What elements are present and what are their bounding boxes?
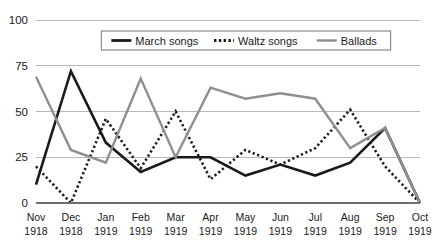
x-tick-month-oct: Oct bbox=[412, 211, 428, 223]
x-tick-year-mar: 1919 bbox=[164, 225, 188, 237]
x-tick-year-may: 1919 bbox=[234, 225, 258, 237]
y-tick-label-75: 75 bbox=[15, 60, 28, 72]
x-tick-month-jul: Jul bbox=[309, 211, 322, 223]
x-tick-year-oct: 1919 bbox=[408, 225, 432, 237]
y-tick-label-0: 0 bbox=[22, 197, 28, 209]
x-tick-month-nov: Nov bbox=[27, 211, 46, 223]
x-tick-month-jan: Jan bbox=[97, 211, 114, 223]
x-tick-month-feb: Feb bbox=[132, 211, 150, 223]
x-tick-month-aug: Aug bbox=[341, 211, 360, 223]
chart-plot-area: 0255075100 Nov1918Dec1918Jan1919Feb1919M… bbox=[0, 0, 440, 252]
x-tick-month-apr: Apr bbox=[202, 211, 219, 223]
y-tick-label-50: 50 bbox=[15, 106, 28, 118]
line-chart: 0255075100 Nov1918Dec1918Jan1919Feb1919M… bbox=[0, 0, 440, 252]
x-tick-month-dec: Dec bbox=[62, 211, 81, 223]
x-tick-year-apr: 1919 bbox=[199, 225, 223, 237]
x-tick-year-jun: 1919 bbox=[269, 225, 293, 237]
x-tick-month-may: May bbox=[236, 211, 257, 223]
legend-label-march-songs: March songs bbox=[135, 35, 198, 47]
y-tick-label-100: 100 bbox=[9, 14, 28, 26]
legend-label-waltz-songs: Waltz songs bbox=[238, 35, 298, 47]
x-tick-year-sep: 1919 bbox=[373, 225, 397, 237]
x-tick-year-feb: 1919 bbox=[129, 225, 153, 237]
x-tick-year-aug: 1919 bbox=[339, 225, 363, 237]
x-tick-month-mar: Mar bbox=[167, 211, 186, 223]
y-tick-label-25: 25 bbox=[15, 151, 28, 163]
x-tick-year-dec: 1918 bbox=[59, 225, 83, 237]
legend-label-ballads: Ballads bbox=[341, 35, 378, 47]
x-tick-month-jun: Jun bbox=[272, 211, 289, 223]
x-tick-year-jul: 1919 bbox=[304, 225, 328, 237]
x-tick-month-sep: Sep bbox=[376, 211, 395, 223]
x-tick-year-jan: 1919 bbox=[94, 225, 118, 237]
chart-legend[interactable]: March songsWaltz songsBallads bbox=[101, 31, 390, 50]
x-tick-year-nov: 1918 bbox=[24, 225, 48, 237]
